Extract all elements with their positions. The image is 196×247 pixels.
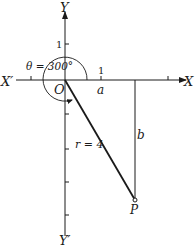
y-axis-label: Y xyxy=(60,0,70,15)
x-axis-label: X xyxy=(183,74,194,89)
y-tick-label: 1 xyxy=(56,39,62,50)
point-p-label: P xyxy=(129,203,139,217)
origin-label: O xyxy=(54,82,65,97)
horizontal-a-label: a xyxy=(97,83,104,97)
point-p xyxy=(133,198,137,202)
diagram-polar-angle: Y Y′ X X′ O 1 1 θ = 300° a b r = 4 P xyxy=(0,0,196,247)
radius-label: r = 4 xyxy=(75,138,103,151)
angle-label: θ = 300° xyxy=(26,60,73,72)
diagram-canvas: Y Y′ X X′ O 1 1 θ = 300° a b r = 4 P xyxy=(0,0,196,247)
vertical-b-label: b xyxy=(137,128,145,142)
x-tick-label: 1 xyxy=(98,65,104,76)
y-neg-axis-label: Y′ xyxy=(59,233,71,247)
x-ticks xyxy=(31,76,168,80)
x-neg-axis-label: X′ xyxy=(0,74,13,89)
